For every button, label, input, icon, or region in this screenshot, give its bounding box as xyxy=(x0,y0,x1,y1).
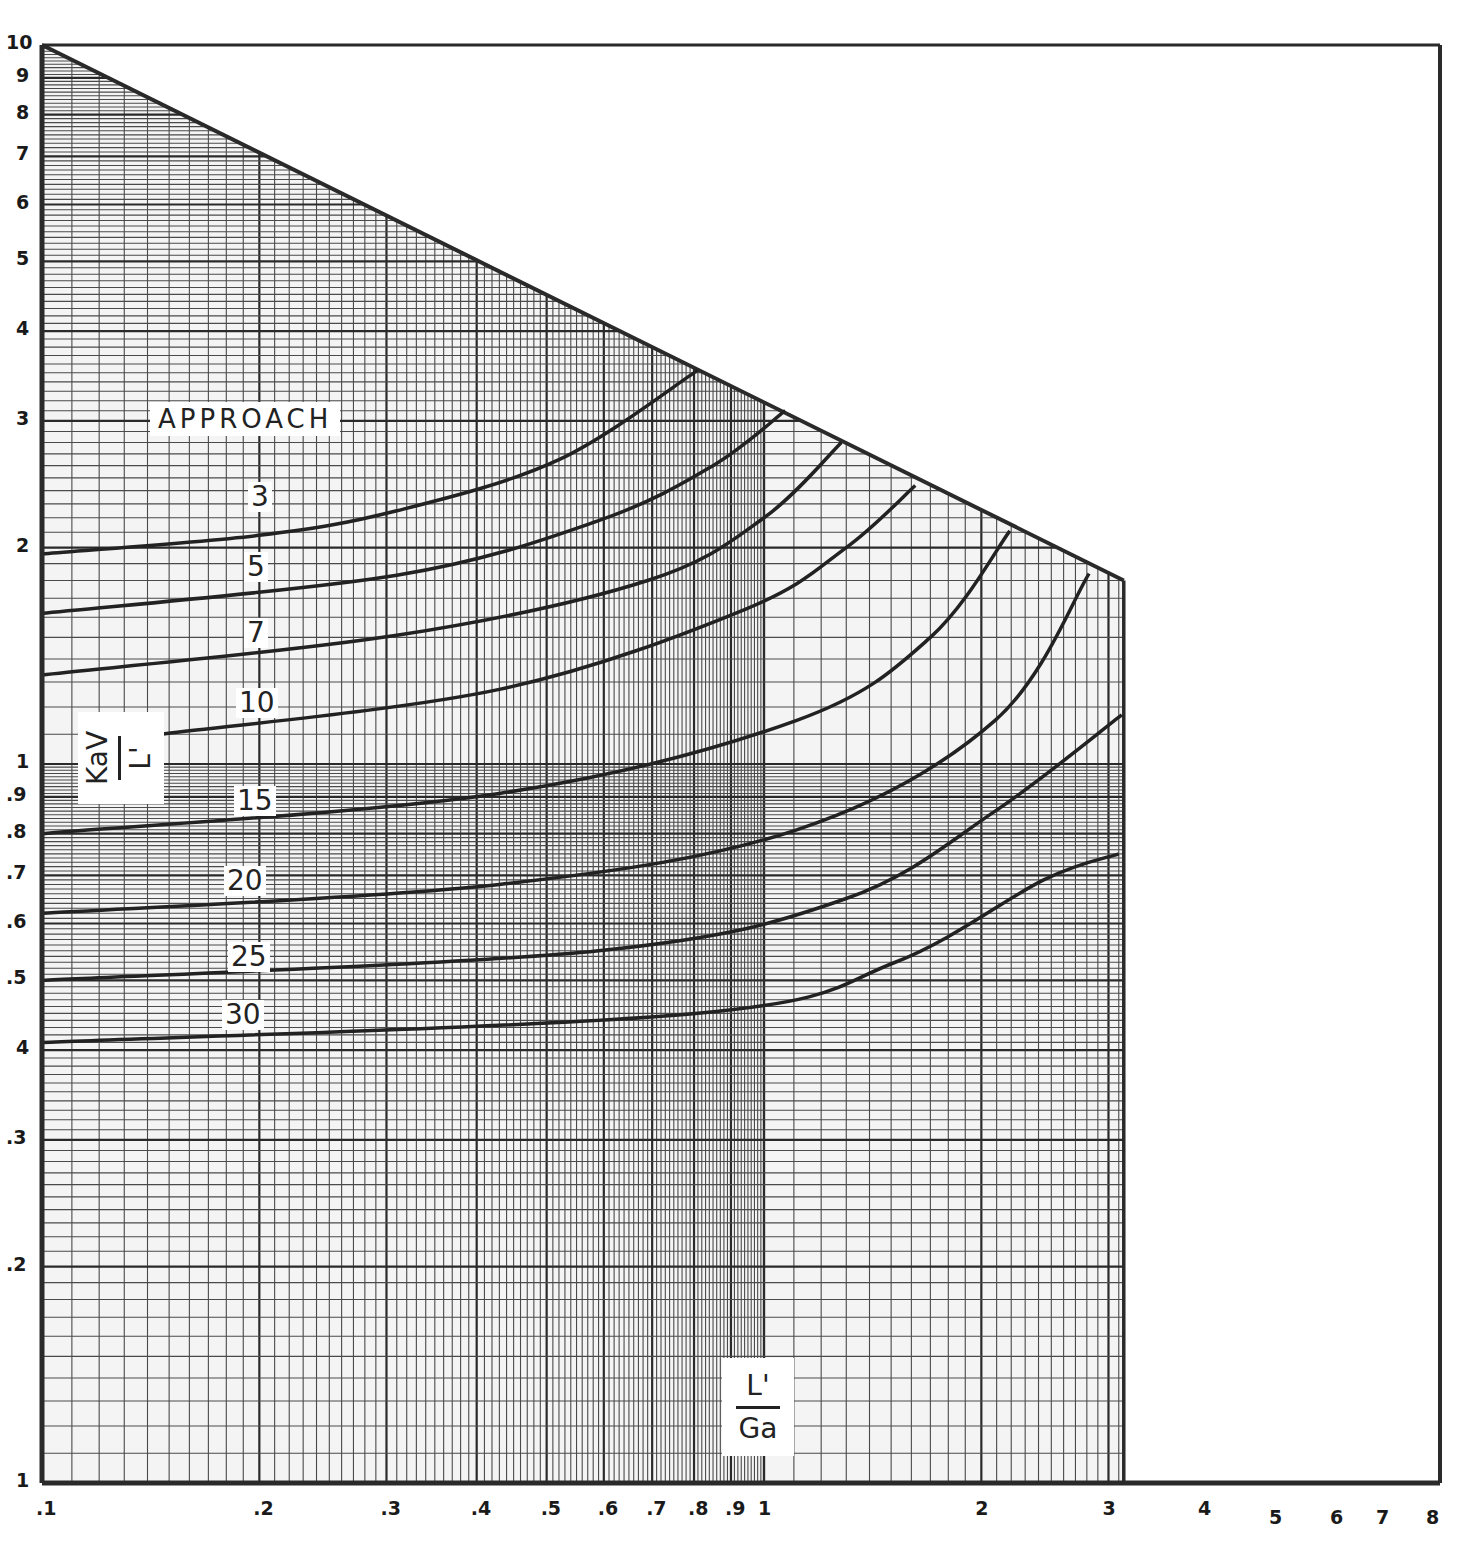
x-tick-label: .6 xyxy=(598,1497,618,1519)
curve-label-3: 3 xyxy=(248,482,272,512)
curve-label-7: 7 xyxy=(244,618,268,648)
x-tick-label: .4 xyxy=(471,1497,491,1519)
y-tick-label: .7 xyxy=(6,861,26,883)
y-tick-label: 5 xyxy=(16,247,29,269)
chart-canvas xyxy=(0,0,1478,1543)
x-tick-label: .2 xyxy=(253,1497,273,1519)
x-tick-label: 4 xyxy=(1198,1497,1211,1519)
fraction-bar xyxy=(736,1406,780,1409)
curve-label-15: 15 xyxy=(234,786,276,816)
y-tick-label: 2 xyxy=(16,534,29,556)
y-axis-label-denominator: L' xyxy=(123,746,159,769)
y-tick-label: .6 xyxy=(6,910,26,932)
y-axis-label-numerator: KaV xyxy=(80,731,116,785)
y-tick-label: 4 xyxy=(16,1036,29,1058)
x-tick-label: 8 xyxy=(1426,1506,1439,1528)
y-tick-label: .2 xyxy=(6,1253,26,1275)
y-axis-label: KaV L' xyxy=(78,712,164,804)
y-tick-label: .3 xyxy=(6,1126,26,1148)
y-tick-label: 6 xyxy=(16,191,29,213)
x-tick-label: 5 xyxy=(1269,1506,1282,1528)
x-tick-label: .8 xyxy=(688,1497,708,1519)
y-tick-label: 10 xyxy=(6,31,32,53)
fraction-bar xyxy=(118,736,121,780)
y-tick-label: 1 xyxy=(16,1469,29,1491)
legend-title-approach: APPROACH xyxy=(150,402,340,436)
x-tick-label: .9 xyxy=(725,1497,745,1519)
curve-label-30: 30 xyxy=(222,1000,264,1030)
curve-label-10: 10 xyxy=(236,688,278,718)
x-tick-label: 6 xyxy=(1330,1506,1343,1528)
y-tick-label: 9 xyxy=(16,64,29,86)
y-tick-label: .8 xyxy=(6,820,26,842)
y-tick-label: 8 xyxy=(16,101,29,123)
x-tick-label: .1 xyxy=(36,1497,56,1519)
x-axis-label: L' Ga xyxy=(722,1358,794,1456)
curve-label-5: 5 xyxy=(244,552,268,582)
x-tick-label: .5 xyxy=(541,1497,561,1519)
y-tick-label: 7 xyxy=(16,142,29,164)
curve-label-20: 20 xyxy=(224,866,266,896)
y-tick-label: .9 xyxy=(6,783,26,805)
graph-paper-grid xyxy=(42,45,1124,1483)
x-axis-label-numerator: L' xyxy=(746,1368,769,1404)
y-tick-label: .5 xyxy=(6,966,26,988)
x-tick-label: .7 xyxy=(646,1497,666,1519)
x-tick-label: 2 xyxy=(975,1497,988,1519)
curve-label-25: 25 xyxy=(228,942,270,972)
y-tick-label: 3 xyxy=(16,407,29,429)
y-tick-label: 1 xyxy=(16,750,29,772)
y-tick-label: 4 xyxy=(16,317,29,339)
x-tick-label: 7 xyxy=(1376,1506,1389,1528)
x-axis-label-denominator: Ga xyxy=(739,1411,778,1447)
x-tick-label: .3 xyxy=(380,1497,400,1519)
x-tick-label: 3 xyxy=(1102,1497,1115,1519)
x-tick-label: 1 xyxy=(758,1497,771,1519)
